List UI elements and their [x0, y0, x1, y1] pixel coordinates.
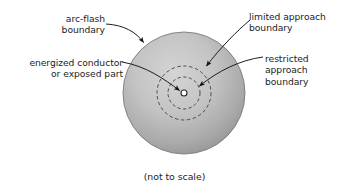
leader-line-arc-flash: [106, 24, 144, 43]
label-limited-approach-boundary: limited approach boundary: [249, 11, 326, 34]
label-energized-conductor: energized conductor or exposed part: [29, 57, 123, 80]
arc-flash-boundary-diagram: arc-flash boundary energized conductor o…: [0, 0, 349, 195]
energized-conductor-center-dot: [181, 90, 187, 96]
label-arc-flash-boundary: arc-flash boundary: [62, 13, 105, 36]
figure-caption: (not to scale): [0, 171, 349, 182]
label-restricted-approach-boundary: restricted approach boundary: [265, 53, 309, 87]
